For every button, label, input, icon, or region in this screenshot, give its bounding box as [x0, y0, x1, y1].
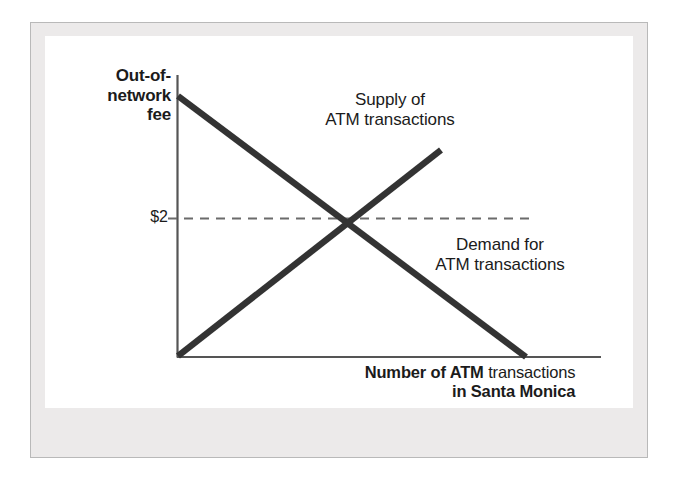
- y-axis-label-line-2: network: [107, 86, 171, 106]
- price-tick-label: $2: [150, 208, 168, 227]
- y-axis-label-line-3: fee: [107, 105, 171, 125]
- demand-label-line-2: ATM transactions: [435, 255, 564, 275]
- y-axis-label: Out-of-networkfee: [107, 66, 171, 125]
- x-axis-label: Number of ATM transactionsin Santa Monic…: [365, 363, 576, 401]
- x-axis-label-bold-2: in Santa Monica: [365, 382, 576, 401]
- supply-label-line-2: ATM transactions: [325, 110, 454, 130]
- x-axis-label-bold-1: Number of ATM: [365, 363, 488, 381]
- x-axis-label-regular-1: transactions: [488, 363, 575, 381]
- chart-svg: [0, 0, 680, 483]
- supply-demand-chart: Out-of-networkfee $2 Supply ofATM transa…: [0, 0, 680, 483]
- supply-label-line-1: Supply of: [355, 90, 425, 109]
- supply-curve-label: Supply ofATM transactions: [325, 90, 454, 129]
- supply-curve: [178, 150, 441, 356]
- page-root: Out-of-networkfee $2 Supply ofATM transa…: [0, 0, 680, 483]
- demand-label-line-1: Demand for: [456, 235, 544, 254]
- y-axis-label-line-1: Out-of-: [116, 66, 171, 85]
- demand-curve-label: Demand forATM transactions: [435, 235, 564, 274]
